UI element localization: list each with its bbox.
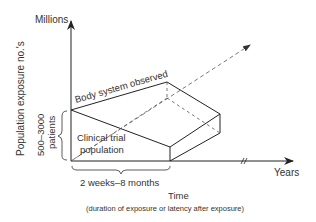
inner-region-label-line2: population — [80, 144, 124, 155]
y-axis-title: Population exposure no.'s — [15, 41, 26, 156]
x-axis-title: Time — [168, 190, 189, 201]
vertical-bracket-label-line1: 500–3000 — [35, 114, 46, 156]
x-axis-subtitle: (duration of exposure or latency after e… — [86, 204, 245, 213]
y-axis-top-label: Millions — [35, 14, 68, 25]
vertical-bracket — [58, 111, 67, 160]
horizontal-bracket-label: 2 weeks–8 months — [80, 177, 159, 188]
vertical-bracket-label-line2: patients — [46, 115, 57, 149]
horizontal-bracket — [72, 166, 170, 174]
x-axis-end-label: Years — [274, 167, 299, 178]
inner-region-label-line1: Clinical trial — [77, 132, 126, 143]
drug-exposure-diagram: Millions Population exposure no.'s 500–3… — [0, 0, 316, 222]
outer-region-label: Body system observed — [74, 68, 169, 105]
